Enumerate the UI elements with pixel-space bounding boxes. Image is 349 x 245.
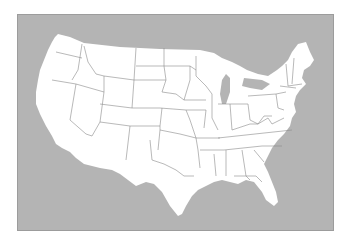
us-land-outline	[36, 34, 314, 216]
us-map	[0, 0, 349, 245]
